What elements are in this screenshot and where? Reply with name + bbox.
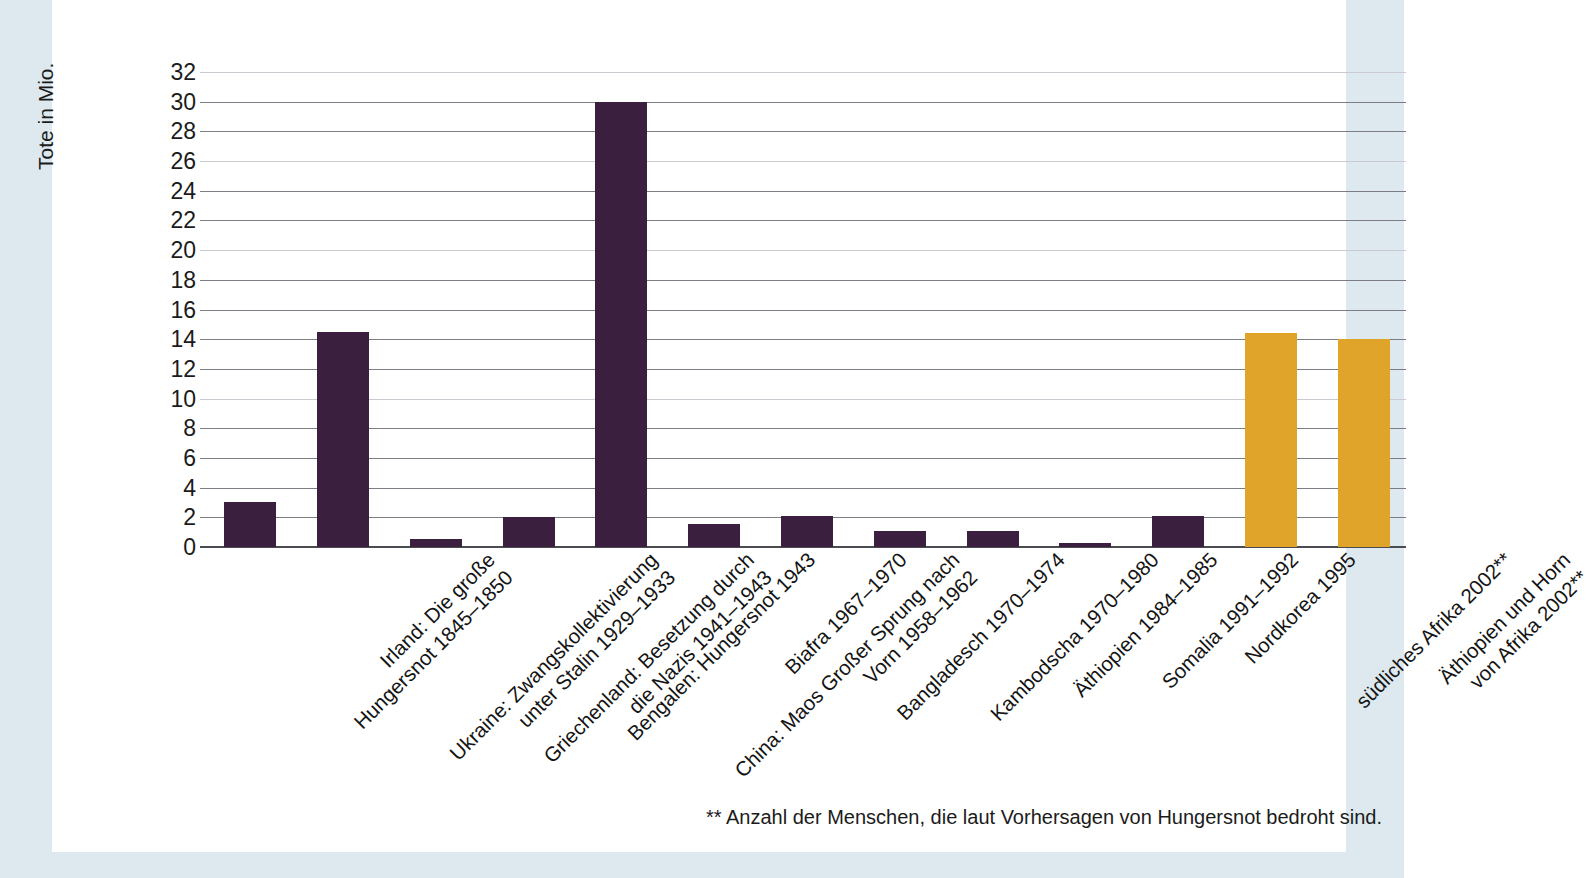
bar: [688, 524, 740, 547]
bar-series: [200, 72, 1406, 547]
y-axis-label: Tote in Mio.: [34, 63, 58, 170]
y-axis-tick-label: 16: [126, 299, 196, 322]
y-axis-tick-label: 32: [126, 61, 196, 84]
bar: [1245, 333, 1297, 547]
y-axis-tick-label: 8: [126, 417, 196, 440]
y-axis-tick-label: 22: [126, 209, 196, 232]
bar: [224, 502, 276, 547]
x-axis-tick-label: Äthiopien und Horn von Afrika 2002**: [1433, 547, 1588, 706]
bar: [874, 531, 926, 547]
bar: [410, 539, 462, 547]
bar: [781, 516, 833, 547]
bar: [1338, 339, 1390, 547]
footnote: ** Anzahl der Menschen, die laut Vorhers…: [52, 806, 1382, 829]
y-axis-tick-label: 28: [126, 120, 196, 143]
y-axis-tick-label: 24: [126, 180, 196, 203]
chart-plot-area: 02468101214161820222426283032: [200, 72, 1406, 547]
bar: [317, 332, 369, 547]
y-axis-tick-label: 2: [126, 506, 196, 529]
y-axis-tick-label: 6: [126, 447, 196, 470]
y-axis-tick-label: 14: [126, 328, 196, 351]
bar: [503, 517, 555, 547]
bar: [1152, 516, 1204, 547]
y-axis-tick-label: 10: [126, 388, 196, 411]
chart-paper: Tote in Mio. 024681012141618202224262830…: [52, 0, 1346, 852]
y-axis-tick-label: 4: [126, 477, 196, 500]
y-axis-tick-label: 26: [126, 150, 196, 173]
y-axis-tick-label: 12: [126, 358, 196, 381]
bar: [595, 102, 647, 547]
y-axis-tick-label: 0: [126, 536, 196, 559]
y-axis-tick-label: 18: [126, 269, 196, 292]
y-axis-tick-label: 20: [126, 239, 196, 262]
bar: [967, 531, 1019, 547]
y-axis-tick-label: 30: [126, 91, 196, 114]
x-axis-labels: Irland: Die große Hungersnot 1845–1850Uk…: [200, 547, 1406, 787]
